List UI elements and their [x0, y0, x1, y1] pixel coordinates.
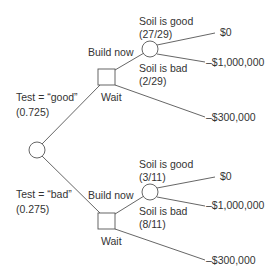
- upper-build-now-label: Build now: [88, 46, 134, 58]
- lower-payoff-soil-good: $0: [220, 170, 232, 182]
- lower-wait-label: Wait: [101, 235, 122, 247]
- upper-decision-node: [98, 69, 115, 85]
- lower-decision-node: [98, 213, 115, 229]
- lower-payoff-soil-bad: –$1,000,000: [206, 199, 265, 211]
- lower-soil-bad-label: Soil is bad: [139, 205, 188, 217]
- upper-payoff-soil-bad: –$1,000,000: [206, 56, 265, 68]
- test-bad-label: Test = “bad”: [16, 188, 72, 200]
- decision-tree: Test = “good” (0.725) Test = “bad” (0.27…: [0, 0, 277, 278]
- test-good-probability: (0.725): [16, 106, 49, 118]
- upper-payoff-wait: –$300,000: [206, 111, 256, 123]
- lower-soil-good-probability: (3/11): [139, 171, 166, 183]
- test-bad-probability: (0.275): [16, 203, 49, 215]
- upper-soil-bad-probability: (2/29): [139, 75, 166, 87]
- lower-build-now-label: Build now: [88, 189, 134, 201]
- edge-test-bad: [42, 156, 100, 213]
- upper-soil-good-probability: (27/29): [139, 28, 172, 40]
- upper-payoff-soil-good: $0: [220, 26, 232, 38]
- upper-chance-node: [142, 41, 158, 57]
- edge-upper-wait: [115, 85, 205, 117]
- edge-lower-wait: [115, 229, 205, 260]
- root-chance-node: [29, 142, 45, 158]
- upper-soil-good-label: Soil is good: [139, 15, 193, 27]
- lower-soil-bad-probability: (8/11): [139, 218, 166, 230]
- upper-wait-label: Wait: [101, 91, 122, 103]
- lower-soil-good-label: Soil is good: [139, 158, 193, 170]
- edge-upper-soil-bad: [157, 54, 205, 62]
- lower-payoff-wait: –$300,000: [206, 254, 256, 266]
- lower-chance-node: [142, 184, 158, 200]
- edge-lower-soil-good: [157, 177, 215, 188]
- test-good-label: Test = “good”: [16, 91, 78, 103]
- upper-soil-bad-label: Soil is bad: [139, 62, 188, 74]
